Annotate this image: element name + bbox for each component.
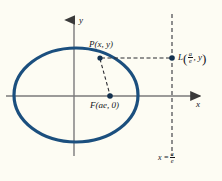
point-marker-l	[169, 55, 175, 61]
point-label-l-close-paren: )	[202, 51, 206, 66]
point-label-p-coords: (x, y)	[95, 39, 113, 49]
point-label-l-second-coord: , y	[194, 52, 203, 62]
point-label-l-open-paren: (	[183, 51, 187, 66]
point-label-p: P(x, y)	[89, 40, 113, 49]
point-label-l-denominator: e	[188, 57, 193, 65]
directrix-equation-denominator: e	[170, 157, 175, 165]
ellipse-focus-directrix-diagram: y x P(x, y) F(ae, 0) L(ae, y) x =ae	[0, 0, 222, 181]
point-label-f-coords: (ae, 0)	[96, 100, 120, 110]
focal-radius-segment-p-to-f	[100, 59, 110, 95]
directrix-equation-lhs: x =	[158, 153, 169, 162]
ellipse-curve	[14, 48, 138, 142]
point-label-f: F(ae, 0)	[90, 101, 119, 110]
point-label-l: L(ae, y)	[178, 51, 206, 65]
directrix-equation-fraction: ae	[169, 151, 174, 165]
point-marker-f	[107, 93, 113, 99]
point-marker-p	[97, 55, 102, 60]
directrix-equation-label: x =ae	[158, 151, 175, 165]
y-axis-label: y	[79, 16, 83, 25]
point-label-l-fraction: ae	[188, 51, 193, 65]
x-axis-label: x	[196, 100, 200, 109]
